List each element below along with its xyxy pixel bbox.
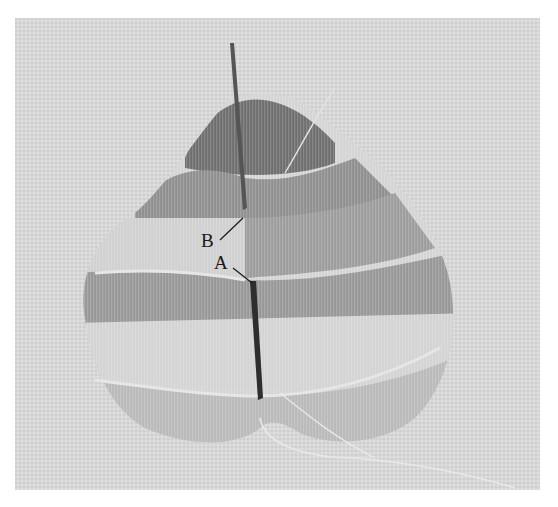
embroidery-photo (15, 18, 540, 490)
label-a: A (214, 253, 228, 272)
label-b: B (201, 231, 214, 250)
leaf-embroidery-illustration (15, 18, 540, 490)
